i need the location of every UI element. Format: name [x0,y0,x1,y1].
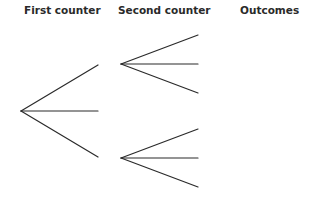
tree-diagram [0,0,313,200]
second-level-branch [121,35,198,64]
second-level-branch [121,158,198,187]
second-level-branch [121,64,198,93]
first-level-branch [21,111,98,157]
second-level-branch [121,129,198,158]
first-level-branch [21,65,98,111]
